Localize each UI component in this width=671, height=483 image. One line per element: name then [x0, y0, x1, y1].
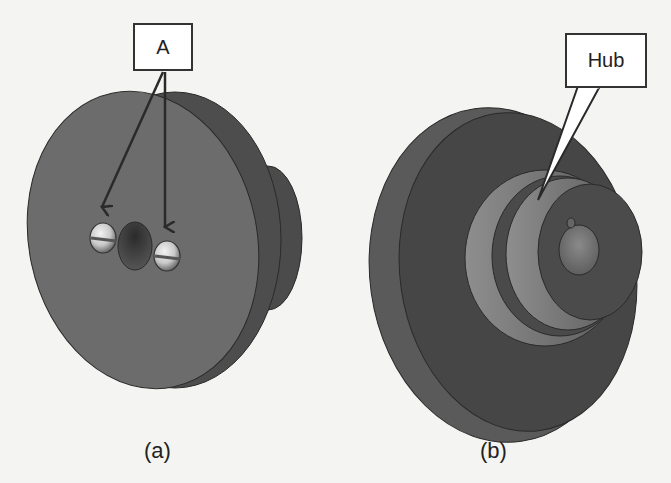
keyway: [567, 218, 575, 228]
callout-label-a: A: [133, 23, 193, 71]
hub-bore: [559, 225, 599, 275]
callout-label-hub: Hub: [565, 33, 647, 88]
caption-a: (a): [144, 438, 171, 464]
left-screw: [90, 223, 116, 253]
center-hole: [118, 222, 152, 270]
panel-a-part: [0, 70, 302, 411]
caption-b: (b): [480, 438, 507, 464]
right-screw: [154, 241, 180, 271]
panel-b-part: [348, 91, 657, 459]
